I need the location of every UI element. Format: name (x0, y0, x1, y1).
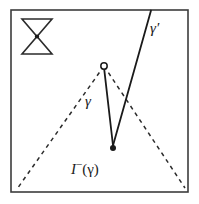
label-gamma: γ (85, 94, 91, 109)
figure-root: γ′ γ I−(γ) (0, 0, 199, 204)
label-gamma-prime: γ′ (150, 21, 159, 36)
past-domain-argument: (γ) (82, 161, 99, 177)
kink-point (110, 145, 116, 151)
label-past-domain: I−(γ) (71, 159, 99, 177)
apex-point (101, 63, 107, 69)
causal-diagram-svg (0, 0, 199, 204)
